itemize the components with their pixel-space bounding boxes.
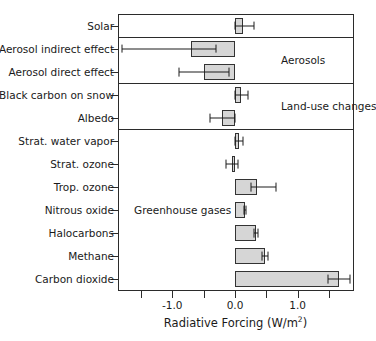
error-bar-cap-low bbox=[178, 67, 179, 76]
x-tick-0 bbox=[141, 291, 142, 298]
category-label: Nitrous oxide bbox=[45, 205, 118, 216]
x-axis-title: Radiative Forcing (W/m2) bbox=[0, 315, 361, 330]
error-bar-cap-low bbox=[243, 206, 244, 215]
error-bar-cap-high bbox=[268, 252, 269, 261]
error-bar-line bbox=[226, 164, 239, 165]
x-tick-label: 1.0 bbox=[289, 299, 306, 311]
error-bar-cap-high bbox=[238, 160, 239, 169]
category-label: Black carbon on snow bbox=[0, 90, 118, 101]
error-bar-cap-low bbox=[235, 137, 236, 146]
error-bar-line bbox=[210, 117, 235, 118]
group-separator bbox=[118, 83, 354, 84]
error-bar-cap-low bbox=[122, 44, 123, 53]
x-axis-title-tail: ) bbox=[303, 316, 308, 330]
error-bar-cap-low bbox=[235, 90, 236, 99]
x-tick-6 bbox=[329, 291, 330, 298]
error-bar-cap-high bbox=[247, 90, 248, 99]
error-bar-cap-high bbox=[275, 183, 276, 192]
group-separator bbox=[118, 37, 354, 38]
x-tick-4 bbox=[266, 291, 267, 298]
error-bar-cap-low bbox=[250, 183, 251, 192]
group-annotation-label: Greenhouse gases bbox=[134, 204, 231, 216]
category-label: Methane bbox=[68, 251, 118, 262]
category-label: Aerosol direct effect bbox=[8, 66, 118, 77]
error-bar-line bbox=[328, 279, 349, 280]
error-bar-cap-low bbox=[235, 21, 236, 30]
error-bar-cap-high bbox=[253, 21, 254, 30]
error-bar-cap-high bbox=[228, 67, 229, 76]
category-label: Strat. ozone bbox=[50, 159, 118, 170]
x-tick-3 bbox=[235, 291, 236, 298]
x-tick-label: -1.0 bbox=[162, 299, 183, 311]
error-bar-cap-high bbox=[216, 44, 217, 53]
error-bar-line bbox=[251, 187, 276, 188]
error-bar-cap-high bbox=[258, 229, 259, 238]
x-tick-2 bbox=[204, 291, 205, 298]
x-tick-label: 0.0 bbox=[227, 299, 244, 311]
error-bar-cap-high bbox=[246, 206, 247, 215]
group-separator bbox=[118, 129, 354, 130]
error-bar-line bbox=[179, 71, 229, 72]
error-bar-cap-low bbox=[328, 275, 329, 284]
bar bbox=[235, 271, 339, 287]
error-bar-cap-low bbox=[225, 160, 226, 169]
category-label: Halocarbons bbox=[49, 228, 118, 239]
category-label: Aerosol indirect effect bbox=[0, 43, 118, 54]
error-bar-cap-high bbox=[349, 275, 350, 284]
group-annotation-label: Aerosols bbox=[281, 54, 325, 66]
group-annotation-label: Land-use changes bbox=[281, 100, 376, 112]
x-tick-1 bbox=[172, 291, 173, 298]
error-bar-cap-low bbox=[261, 252, 262, 261]
category-label: Solar bbox=[87, 20, 118, 31]
error-bar-line bbox=[122, 48, 216, 49]
x-axis-title-base: Radiative Forcing (W/m bbox=[164, 316, 298, 330]
error-bar-cap-high bbox=[235, 113, 236, 122]
x-tick-5 bbox=[298, 291, 299, 298]
category-label: Albedo bbox=[78, 113, 118, 124]
category-label: Carbon dioxide bbox=[35, 274, 118, 285]
category-label: Strat. water vapor bbox=[18, 136, 118, 147]
error-bar-line bbox=[235, 94, 248, 95]
error-bar-cap-low bbox=[209, 113, 210, 122]
category-label: Trop. ozone bbox=[54, 182, 118, 193]
error-bar-cap-low bbox=[254, 229, 255, 238]
error-bar-cap-high bbox=[242, 137, 243, 146]
error-bar-line bbox=[235, 25, 254, 26]
